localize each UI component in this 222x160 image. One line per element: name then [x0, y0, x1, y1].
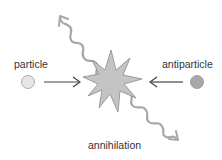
antiparticle-label: antiparticle: [162, 59, 213, 70]
photon-down-right-icon: [122, 90, 178, 140]
arrow-left-icon: [150, 77, 183, 87]
particle-icon: [22, 76, 35, 89]
annihilation-diagram: particle antiparticle annihilation: [0, 0, 222, 160]
arrow-right-icon: [44, 77, 80, 87]
annihilation-burst-icon: [83, 50, 142, 112]
diagram-graphic: [0, 0, 222, 160]
antiparticle-icon: [191, 76, 204, 89]
annihilation-label: annihilation: [88, 140, 141, 151]
particle-label: particle: [14, 59, 48, 70]
